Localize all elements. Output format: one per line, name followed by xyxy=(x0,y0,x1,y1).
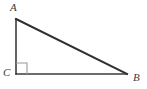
right-triangle-graphic xyxy=(0,0,147,89)
edge-AB-hypotenuse xyxy=(16,19,127,74)
figure-canvas: A B C xyxy=(0,0,147,89)
vertex-label-a: A xyxy=(10,2,17,13)
right-angle-marker-icon xyxy=(16,63,27,74)
vertex-label-b: B xyxy=(133,72,140,83)
vertex-label-c: C xyxy=(3,67,10,78)
